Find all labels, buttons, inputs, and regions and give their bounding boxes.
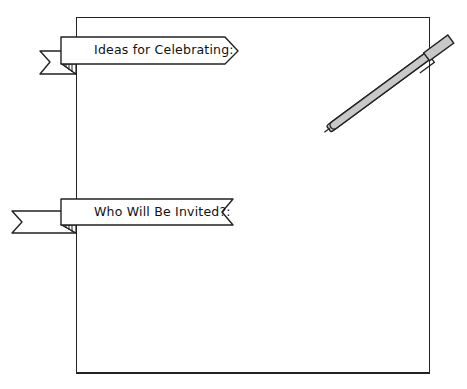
ideas-writing-area[interactable] bbox=[80, 68, 426, 196]
invitees-writing-area[interactable] bbox=[80, 230, 426, 368]
section-heading-ideas: Ideas for Celebrating: bbox=[94, 42, 234, 57]
section-heading-invitees: Who Will Be Invited?: bbox=[94, 204, 231, 219]
